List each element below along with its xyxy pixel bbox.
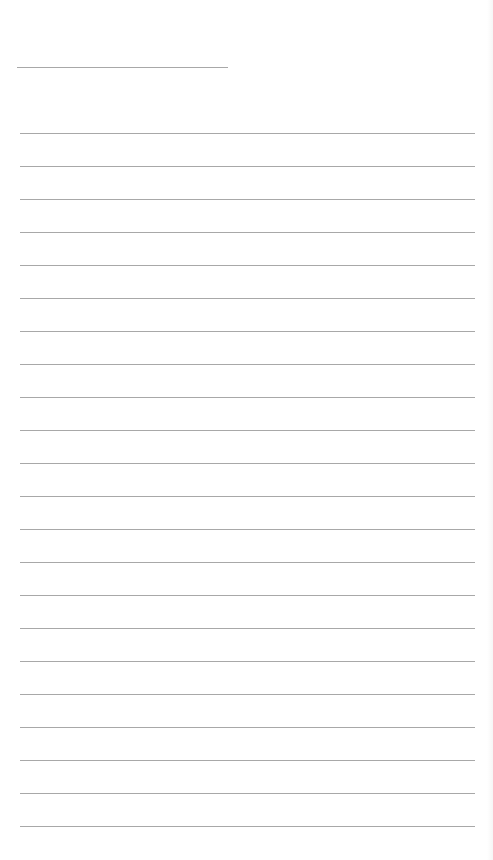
ruled-line (20, 199, 475, 200)
ruled-line (20, 727, 475, 728)
title-underline (17, 67, 228, 68)
lined-paper-page (0, 0, 493, 860)
ruled-line (20, 430, 475, 431)
ruled-line (20, 397, 475, 398)
ruled-line (20, 463, 475, 464)
ruled-line (20, 628, 475, 629)
ruled-line (20, 166, 475, 167)
ruled-line (20, 298, 475, 299)
ruled-line (20, 265, 475, 266)
ruled-line (20, 496, 475, 497)
ruled-line (20, 595, 475, 596)
ruled-line (20, 364, 475, 365)
ruled-line (20, 826, 475, 827)
ruled-line (20, 694, 475, 695)
ruled-line (20, 232, 475, 233)
page-edge-shadow (487, 0, 493, 860)
ruled-line (20, 562, 475, 563)
ruled-line (20, 760, 475, 761)
ruled-line (20, 661, 475, 662)
ruled-line (20, 793, 475, 794)
ruled-line (20, 331, 475, 332)
ruled-line (20, 133, 475, 134)
ruled-line (20, 529, 475, 530)
